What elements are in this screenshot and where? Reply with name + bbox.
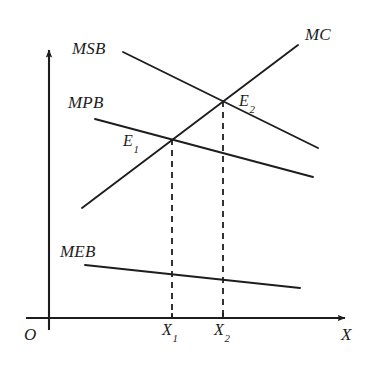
economics-diagram: MSB MPB MEB MC E1 E2 O X X1 X2 — [0, 0, 376, 372]
curve-label-meb: MEB — [60, 243, 96, 260]
curve-label-msb: MSB — [72, 40, 106, 57]
point-label-e1-subscript: 1 — [133, 143, 139, 155]
tick-label-x1-subscript: 1 — [172, 332, 178, 344]
tick-label-x2-base: X — [214, 321, 224, 338]
tick-label-x2: X2 — [214, 322, 230, 341]
curve-mc — [82, 45, 298, 208]
tick-label-x1-base: X — [162, 321, 172, 338]
curve-label-mc: MC — [305, 26, 331, 43]
point-label-e1-base: E — [123, 132, 133, 149]
point-label-e1: E1 — [123, 133, 139, 152]
origin-label: O — [24, 326, 36, 343]
point-label-e2: E2 — [239, 93, 255, 112]
point-label-e2-subscript: 2 — [249, 103, 255, 115]
curve-label-mpb: MPB — [68, 94, 104, 111]
diagram-canvas — [0, 0, 376, 372]
point-label-e2-base: E — [239, 92, 249, 109]
tick-label-x1: X1 — [162, 322, 178, 341]
curve-meb — [85, 265, 300, 288]
tick-label-x2-subscript: 2 — [224, 332, 230, 344]
x-axis-label: X — [341, 326, 352, 343]
